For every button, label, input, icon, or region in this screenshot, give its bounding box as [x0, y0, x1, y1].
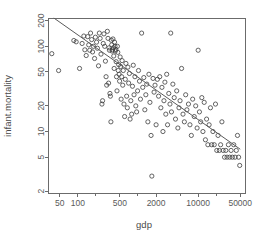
data-point	[203, 138, 207, 142]
data-point	[202, 100, 206, 104]
data-point	[114, 75, 118, 79]
data-point	[219, 143, 223, 147]
data-point	[144, 93, 148, 97]
data-point	[160, 85, 164, 89]
data-point	[135, 89, 139, 93]
y-tick-label: 5	[36, 155, 46, 160]
data-point	[88, 31, 92, 35]
data-point	[154, 123, 158, 127]
scatter-plot-figure: 5010050020001000050000 20010050201052 gd…	[0, 0, 269, 240]
data-point	[103, 59, 107, 63]
data-point	[112, 66, 116, 70]
data-point	[121, 68, 125, 72]
data-point	[129, 99, 133, 103]
data-point	[151, 76, 155, 80]
data-point	[57, 68, 61, 72]
data-point	[83, 48, 87, 52]
data-point	[142, 75, 146, 79]
data-point	[163, 80, 167, 84]
data-point	[171, 82, 175, 86]
data-point	[149, 133, 153, 137]
data-point	[125, 94, 129, 98]
data-point	[125, 106, 129, 110]
x-tick-label: 2000	[147, 198, 166, 208]
data-point	[146, 120, 150, 124]
x-axis-title: gdp	[136, 219, 152, 230]
data-point	[234, 148, 238, 152]
data-point	[77, 66, 81, 70]
data-point	[93, 35, 97, 39]
y-axis-ticks: 20010050201052	[36, 13, 48, 193]
data-point	[201, 129, 205, 133]
data-point	[158, 75, 162, 79]
regression-line	[54, 18, 240, 149]
data-point	[194, 104, 198, 108]
data-point	[179, 66, 183, 70]
data-point	[229, 148, 233, 152]
data-point	[104, 75, 108, 79]
data-point	[235, 133, 239, 137]
trend-line-layer	[54, 18, 240, 149]
data-point	[212, 143, 216, 147]
data-point	[165, 72, 169, 76]
data-point	[175, 89, 179, 93]
data-point	[94, 40, 98, 44]
data-point	[141, 85, 145, 89]
data-point	[213, 102, 217, 106]
data-point	[136, 68, 140, 72]
data-point	[97, 31, 101, 35]
data-point	[189, 133, 193, 137]
data-point	[159, 106, 163, 110]
data-point	[200, 96, 204, 100]
data-point	[197, 110, 201, 114]
x-tick-label: 50	[55, 198, 65, 208]
data-point	[130, 112, 134, 116]
data-point	[181, 112, 185, 116]
data-point	[117, 79, 121, 83]
data-point	[156, 94, 160, 98]
data-point	[92, 56, 96, 60]
data-point	[121, 83, 125, 87]
x-tick-label: 50000	[228, 198, 252, 208]
data-point	[122, 102, 126, 106]
data-point	[220, 120, 224, 124]
data-point	[224, 148, 228, 152]
data-point	[208, 106, 212, 110]
y-tick-label: 10	[36, 127, 46, 137]
data-point	[127, 81, 131, 85]
data-point	[147, 72, 151, 76]
y-tick-label: 50	[36, 67, 46, 77]
data-points-layer	[50, 29, 242, 178]
data-point	[131, 63, 135, 67]
data-point	[182, 120, 186, 124]
data-point	[155, 77, 159, 81]
y-tick-label: 200	[36, 13, 46, 27]
data-point	[167, 91, 171, 95]
data-point	[165, 123, 169, 127]
data-point	[173, 117, 177, 121]
x-tick-label: 100	[71, 198, 85, 208]
data-point	[148, 100, 152, 104]
data-point	[150, 174, 154, 178]
data-point	[195, 126, 199, 130]
data-point	[143, 108, 147, 112]
data-point	[96, 64, 100, 68]
data-point	[186, 102, 190, 106]
data-point	[105, 29, 109, 33]
data-point	[84, 53, 88, 57]
data-point	[184, 93, 188, 97]
data-point	[168, 102, 172, 106]
data-point	[161, 129, 165, 133]
data-point	[132, 93, 136, 97]
data-point	[188, 123, 192, 127]
data-point	[152, 90, 156, 94]
data-point	[98, 36, 102, 40]
data-point	[130, 84, 134, 88]
data-point	[120, 59, 124, 63]
data-point	[196, 48, 200, 52]
data-point	[135, 110, 139, 114]
data-point	[162, 99, 166, 103]
data-point	[176, 126, 180, 130]
data-point	[138, 97, 142, 101]
x-axis-ticks: 5010050020001000050000	[55, 193, 252, 208]
